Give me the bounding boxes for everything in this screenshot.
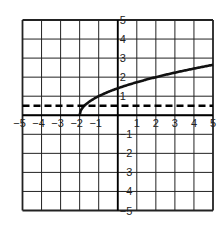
- x-tick-label: 5: [210, 117, 216, 129]
- x-tick-label: −3: [51, 117, 64, 129]
- y-tick-label: −1: [120, 128, 133, 140]
- y-tick-label: 4: [120, 33, 126, 45]
- x-tick-label: −4: [32, 117, 45, 129]
- y-tick-label: −5: [120, 205, 133, 217]
- coordinate-plane: −5−4−3−2−112345−5−4−3−2−112345: [0, 0, 223, 228]
- y-tick-label: 3: [120, 52, 126, 64]
- x-tick-label: −1: [89, 117, 102, 129]
- y-tick-label: 5: [120, 14, 126, 26]
- x-tick-label: −5: [13, 117, 26, 129]
- x-tick-label: 4: [191, 117, 197, 129]
- x-tick-label: 1: [134, 117, 140, 129]
- x-tick-label: 2: [153, 117, 159, 129]
- y-tick-label: −3: [120, 166, 133, 178]
- x-tick-label: −2: [70, 117, 83, 129]
- axes: [23, 20, 214, 211]
- curve-sqrt: [80, 65, 213, 115]
- y-tick-label: 1: [120, 90, 126, 102]
- x-tick-label: 3: [172, 117, 178, 129]
- y-tick-label: −4: [120, 185, 133, 197]
- y-tick-label: 2: [120, 71, 126, 83]
- y-tick-label: −2: [120, 147, 133, 159]
